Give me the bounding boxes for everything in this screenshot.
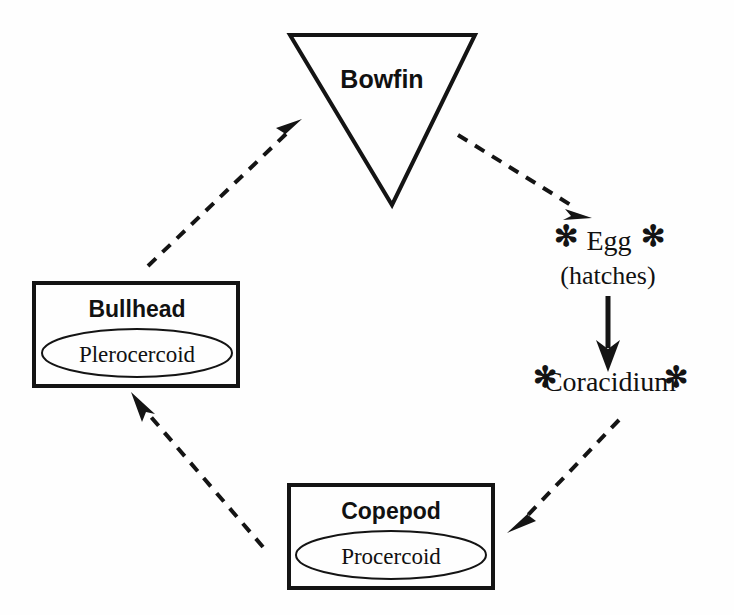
- plerocercoid-label: Plerocercoid: [79, 342, 196, 367]
- node-egg[interactable]: ✻ Egg ✻ (hatches): [554, 220, 665, 290]
- coracidium-asterisk-right: ✻: [664, 361, 688, 393]
- coracidium-label: Coracidium: [544, 366, 676, 397]
- bullhead-label: Bullhead: [88, 296, 185, 322]
- copepod-label: Copepod: [341, 498, 441, 524]
- link-coracidium-to-copepod: [507, 420, 619, 533]
- egg-label: Egg: [586, 225, 631, 256]
- bowfin-label: Bowfin: [340, 65, 423, 93]
- egg-asterisk-left: ✻: [554, 220, 578, 252]
- node-bullhead[interactable]: Bullhead Plerocercoid: [34, 283, 238, 386]
- node-coracidium[interactable]: ✻ Coracidium ✻: [533, 361, 688, 397]
- diagram-canvas: Bowfin ✻ Egg ✻ (hatches) ✻ Coracidium ✻ …: [0, 0, 734, 615]
- life-cycle-diagram: Bowfin ✻ Egg ✻ (hatches) ✻ Coracidium ✻ …: [0, 0, 734, 615]
- link-bowfin-to-egg: [458, 135, 592, 220]
- egg-asterisk-right: ✻: [641, 220, 665, 252]
- link-egg-to-coracidium: [596, 296, 620, 372]
- arrowhead-bowfin: [276, 119, 302, 140]
- egg-sublabel: (hatches): [560, 261, 655, 290]
- link-bullhead-to-bowfin: [148, 119, 302, 266]
- node-copepod[interactable]: Copepod Procercoid: [289, 485, 493, 588]
- link-copepod-to-bullhead: [131, 392, 263, 547]
- bowfin-triangle: [290, 35, 475, 205]
- procercoid-label: Procercoid: [341, 544, 441, 569]
- arrowhead-egg: [563, 209, 592, 220]
- node-bowfin[interactable]: Bowfin: [290, 35, 475, 205]
